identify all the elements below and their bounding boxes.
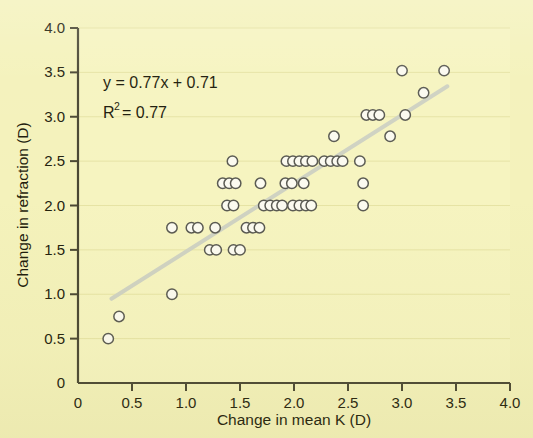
- data-point: [374, 110, 384, 120]
- chart-canvas: 00.51.01.52.02.53.03.54.0 00.51.01.52.02…: [0, 0, 533, 438]
- y-tick-label: 2.0: [44, 197, 65, 214]
- y-tick-label: 2.5: [44, 152, 65, 169]
- data-point: [235, 245, 245, 255]
- x-tick-label: 2.0: [284, 394, 305, 411]
- x-axis-tick-labels: 00.51.01.52.02.53.03.54.0: [74, 394, 521, 411]
- data-point: [397, 65, 407, 75]
- data-point: [227, 156, 237, 166]
- data-point: [210, 222, 220, 232]
- x-tick-label: 1.0: [176, 394, 197, 411]
- y-tick-label: 0: [57, 374, 65, 391]
- data-point: [307, 156, 317, 166]
- data-point: [329, 131, 339, 141]
- data-point: [299, 178, 309, 188]
- y-axis-ticks: [70, 28, 78, 339]
- data-point: [337, 156, 347, 166]
- y-tick-label: 4.0: [44, 19, 65, 36]
- data-point: [418, 88, 428, 98]
- regression-equation-label: y = 0.77x + 0.71: [103, 74, 218, 91]
- data-point: [228, 200, 238, 210]
- data-point: [103, 333, 113, 343]
- r-squared-value: = 0.77: [122, 104, 167, 121]
- x-axis-title: Change in mean K (D): [217, 411, 371, 428]
- data-point: [254, 222, 264, 232]
- x-tick-label: 1.5: [230, 394, 251, 411]
- y-tick-label: 3.0: [44, 108, 65, 125]
- y-tick-label: 1.5: [44, 241, 65, 258]
- x-tick-label: 3.0: [392, 394, 413, 411]
- data-point: [358, 200, 368, 210]
- y-tick-label: 0.5: [44, 330, 65, 347]
- data-point: [358, 178, 368, 188]
- y-axis-title: Change in refraction (D): [14, 122, 31, 287]
- r-squared-label: R 2 = 0.77: [103, 100, 167, 121]
- data-point: [167, 289, 177, 299]
- scatter-plot-figure: 00.51.01.52.02.53.03.54.0 00.51.01.52.02…: [0, 0, 533, 438]
- y-tick-label: 1.0: [44, 285, 65, 302]
- y-tick-label: 3.5: [44, 63, 65, 80]
- x-tick-label: 3.5: [446, 394, 467, 411]
- data-point: [306, 200, 316, 210]
- r-squared-exponent: 2: [114, 100, 120, 112]
- x-axis-ticks: [132, 383, 510, 391]
- data-point: [230, 178, 240, 188]
- data-point: [277, 200, 287, 210]
- data-point: [211, 245, 221, 255]
- data-point: [355, 156, 365, 166]
- data-point: [439, 65, 449, 75]
- y-axis-tick-labels: 00.51.01.52.02.53.03.54.0: [44, 19, 65, 391]
- data-point: [287, 178, 297, 188]
- x-tick-label: 2.5: [338, 394, 359, 411]
- x-tick-label: 0.5: [122, 394, 143, 411]
- data-point: [193, 222, 203, 232]
- x-tick-label: 4.0: [500, 394, 521, 411]
- x-tick-label: 0: [74, 394, 82, 411]
- data-point: [385, 131, 395, 141]
- data-point: [255, 178, 265, 188]
- data-point: [167, 222, 177, 232]
- data-point: [114, 311, 124, 321]
- r-squared-letter: R: [103, 104, 115, 121]
- data-point: [400, 110, 410, 120]
